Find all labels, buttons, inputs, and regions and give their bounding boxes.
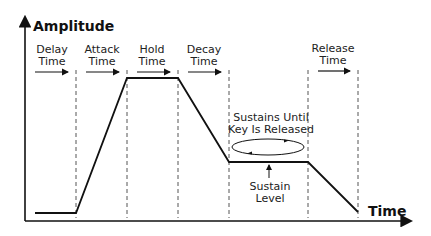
envelope-curve — [35, 78, 358, 213]
phase-label-hold: HoldTime — [130, 44, 174, 68]
y-axis-label: Amplitude — [33, 18, 114, 34]
phase-label-delay: DelayTime — [30, 44, 74, 68]
phase-label-attack: AttackTime — [80, 44, 124, 68]
phase-dividers — [76, 70, 358, 218]
phase-arrows — [35, 71, 350, 72]
phase-label-decay: DecayTime — [182, 44, 226, 68]
x-axis-label: Time — [368, 203, 406, 219]
sustain-loop-label: Sustains UntilKey Is Released — [228, 112, 314, 136]
sustain-loop-icon — [232, 139, 304, 155]
envelope-diagram — [0, 0, 431, 236]
sustain-level-label: SustainLevel — [245, 181, 295, 205]
phase-label-release: ReleaseTime — [308, 43, 358, 67]
